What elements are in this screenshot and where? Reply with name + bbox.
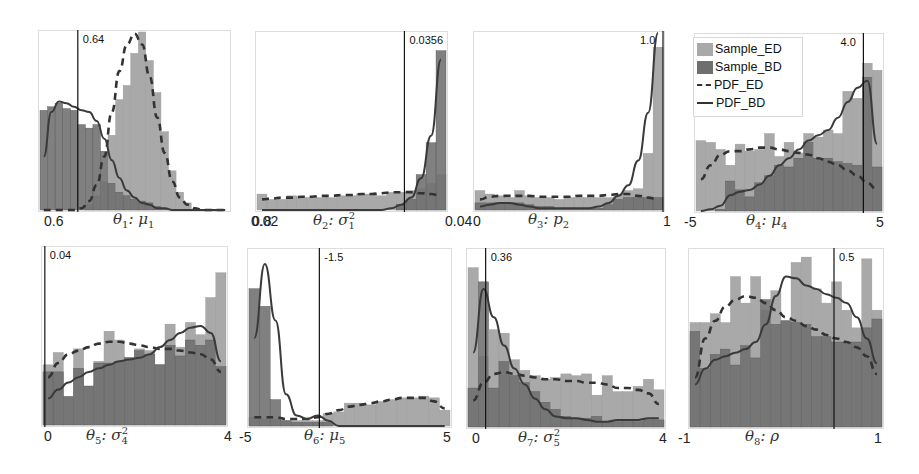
x-axis-label-part: θ — [528, 210, 537, 228]
legend-label: PDF_ED — [714, 78, 763, 92]
x-axis-label-part: : σ — [533, 428, 553, 446]
x-tick-max: 4 — [224, 428, 232, 444]
x-axis-label-part: θ — [745, 427, 754, 445]
histogram-plot — [466, 248, 666, 429]
legend-swatch-light-icon — [697, 43, 713, 56]
true-value-label: 0.04 — [50, 249, 71, 261]
legend-label: Sample_BD — [715, 60, 782, 74]
legend-swatch-dark-icon — [697, 61, 713, 74]
x-axis-label-part: 5 — [339, 435, 345, 446]
x-tick-min: -5 — [239, 429, 251, 445]
true-value-label: 1.0 — [640, 34, 655, 46]
x-tick-max: 1 — [663, 213, 671, 229]
x-axis-label-part: 1 — [348, 220, 354, 231]
x-tick-min: 0 — [473, 213, 481, 229]
x-axis-label-part: 2 — [554, 427, 560, 438]
x-axis-label-part: θ — [86, 426, 95, 444]
histogram-plot — [473, 31, 665, 212]
legend-label: PDF_BD — [716, 96, 765, 110]
x-axis-label-part: : σ — [328, 211, 348, 229]
x-axis-label: θ5: σ42 — [86, 425, 128, 446]
x-axis-label-part: : p — [543, 210, 562, 228]
x-axis-label-part: : ρ — [760, 427, 779, 445]
legend-label: Sample_ED — [715, 42, 782, 56]
true-value-label: 0.5 — [839, 251, 854, 263]
x-tick-max: 1 — [874, 430, 882, 446]
x-axis-label-part: 1 — [148, 219, 154, 230]
x-axis-label: θ8: ρ — [745, 427, 779, 447]
x-axis-label-part: : μ — [319, 426, 339, 444]
x-axis-label: θ7: σ52 — [518, 427, 560, 448]
x-tick-max: 0.04 — [445, 213, 472, 229]
x-axis-label: θ3: p2 — [528, 210, 569, 230]
x-axis-label-part: 2 — [563, 219, 569, 230]
x-axis-label: θ1: μ1 — [113, 210, 154, 230]
x-axis-label-part: 4 — [121, 435, 127, 446]
x-axis-label-part: 2 — [122, 425, 128, 436]
x-tick-min: 0 — [44, 428, 52, 444]
x-axis-label-part: θ — [304, 426, 313, 444]
x-tick-min: -5 — [684, 214, 696, 230]
x-tick-max: 5 — [443, 429, 451, 445]
true-value-label: 0.64 — [83, 33, 104, 45]
histogram-plot — [255, 31, 448, 212]
x-axis-label-part: θ — [746, 211, 755, 229]
x-tick-max: 5 — [876, 214, 884, 230]
x-axis-label-part: 5 — [553, 437, 559, 448]
histogram-plot — [247, 248, 452, 428]
subplot-theta8: 0.5-11θ8: ρ — [688, 248, 884, 429]
x-axis-label: θ6: μ5 — [304, 426, 345, 446]
subplot-theta6: -1.5-55θ6: μ5 — [247, 248, 452, 428]
x-tick-min: -1 — [678, 430, 690, 446]
x-axis-label-part: 2 — [349, 210, 355, 221]
subplot-theta2: 0.03560.020.04θ2: σ12 — [255, 31, 448, 212]
legend-item-sample-ed: Sample_ED — [697, 41, 782, 57]
x-tick-min: 0.6 — [44, 213, 63, 229]
x-axis-label-part: : σ — [101, 426, 121, 444]
solid-line-icon — [697, 102, 713, 104]
true-value-label: 0.0356 — [409, 34, 443, 46]
x-axis-label-part: : μ — [761, 211, 781, 229]
x-axis-label-part: θ — [113, 210, 122, 228]
legend-item-sample-bd: Sample_BD — [697, 59, 782, 75]
true-value-label: -1.5 — [324, 251, 343, 263]
subplot-theta3: 1.001θ3: p2 — [473, 31, 665, 212]
x-tick-max: 4 — [659, 430, 667, 446]
x-tick-min: 0 — [472, 430, 480, 446]
subplot-theta1: 0.640.60.8θ1: μ1 — [38, 30, 231, 212]
x-axis-label-part: 4 — [781, 220, 787, 231]
x-tick-min: 0.02 — [251, 213, 278, 229]
x-axis-label: θ4: μ4 — [746, 211, 787, 231]
x-axis-label-part: : μ — [128, 210, 148, 228]
histogram-plot — [38, 30, 231, 212]
x-axis-label: θ2: σ12 — [313, 210, 355, 231]
dashed-line-icon — [697, 84, 711, 86]
true-value-label: 0.36 — [491, 251, 512, 263]
x-axis-label-part: θ — [313, 211, 322, 229]
subplot-theta5: 0.0404θ5: σ42 — [41, 246, 228, 427]
histogram-plot — [41, 246, 228, 427]
histogram-plot — [688, 248, 884, 429]
subplot-theta7: 0.3604θ7: σ52 — [466, 248, 666, 429]
true-value-label: 4.0 — [841, 36, 856, 48]
legend-item-pdf-ed: PDF_ED — [697, 77, 763, 93]
x-axis-label-part: θ — [518, 428, 527, 446]
legend: Sample_ED Sample_BD PDF_ED PDF_BD — [693, 37, 803, 117]
legend-item-pdf-bd: PDF_BD — [697, 95, 765, 111]
